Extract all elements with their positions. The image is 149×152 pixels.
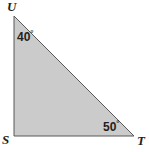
degree-symbol-t: ° — [116, 119, 119, 128]
degree-symbol-u: ° — [30, 29, 33, 38]
angle-label-t: 50° — [103, 120, 120, 133]
angle-value-u: 40 — [17, 30, 30, 44]
triangle-shape — [0, 0, 149, 152]
vertex-label-s: S — [2, 133, 9, 146]
angle-value-t: 50 — [103, 120, 116, 134]
angle-label-u: 40° — [17, 30, 34, 43]
vertex-label-u: U — [7, 0, 16, 13]
vertex-label-t: T — [137, 134, 145, 147]
geometry-figure: U S T 40° 50° — [0, 0, 149, 152]
